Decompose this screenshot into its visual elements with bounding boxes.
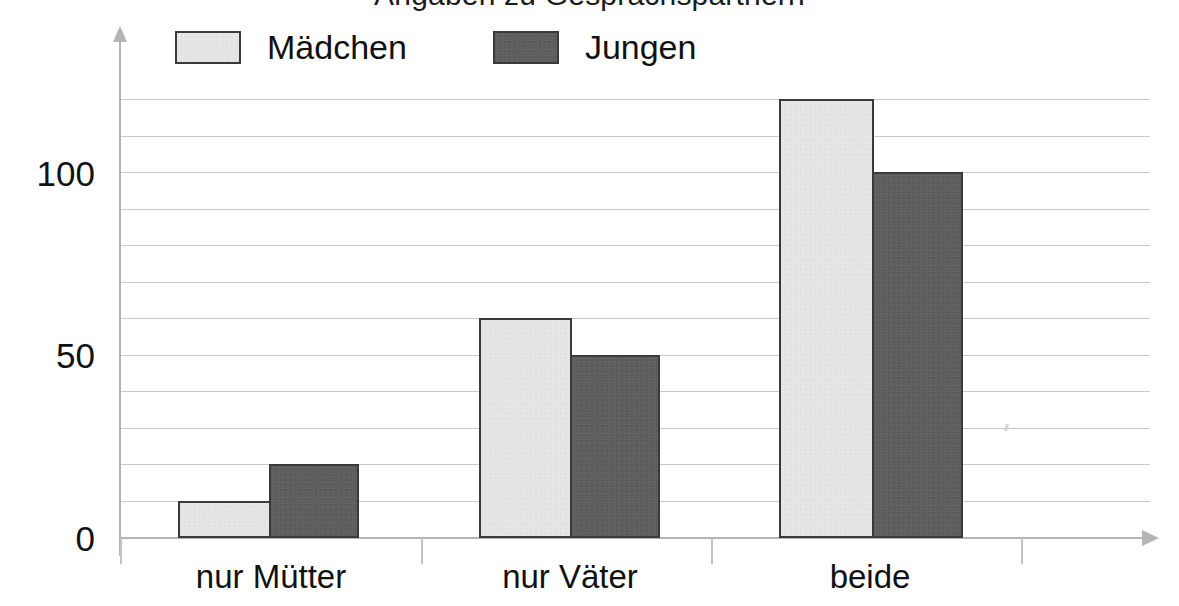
gridline-60	[120, 318, 1150, 319]
chart-legend: Mädchen Jungen	[175, 30, 696, 64]
plot-area: 100 50 0 nur Mütter nur Väter beide	[0, 0, 1179, 606]
legend-label-maedchen: Mädchen	[267, 30, 407, 64]
y-axis-label-100: 100	[10, 156, 95, 191]
x-axis-tick	[711, 538, 713, 564]
y-axis-label-0: 0	[10, 521, 95, 556]
x-axis-tick	[421, 538, 423, 564]
gridline-100	[120, 172, 1150, 173]
x-axis-label-nur-muetter: nur Mütter	[171, 560, 371, 593]
bar-jungen-beide	[872, 172, 963, 538]
x-axis-label-nur-vaeter: nur Väter	[470, 560, 670, 593]
y-axis-line	[119, 40, 121, 556]
gridline-120	[120, 99, 1150, 100]
bar-jungen-nur-vaeter	[570, 355, 660, 538]
x-axis-label-beide: beide	[770, 560, 970, 593]
bar-chart: Angaben zu Gesprächspartnern 100 50 0	[0, 0, 1179, 606]
bar-jungen-nur-muetter	[269, 464, 359, 538]
dark-swatch-icon	[493, 31, 559, 64]
bar-maedchen-nur-vaeter	[479, 318, 572, 538]
x-axis-arrow-icon	[1142, 530, 1159, 546]
gridline-90	[120, 209, 1150, 210]
gridline-70	[120, 282, 1150, 283]
legend-item-maedchen: Mädchen	[175, 30, 407, 64]
gridline-110	[120, 136, 1150, 137]
bar-maedchen-nur-muetter	[178, 501, 271, 538]
bar-maedchen-beide	[779, 99, 874, 538]
legend-item-jungen: Jungen	[493, 30, 697, 64]
light-swatch-icon	[175, 31, 241, 64]
x-axis-tick	[120, 538, 122, 564]
legend-label-jungen: Jungen	[585, 30, 697, 64]
x-axis-tick	[1021, 538, 1023, 564]
y-axis-arrow-icon	[113, 26, 127, 42]
y-axis-label-50: 50	[10, 338, 95, 373]
gridline-80	[120, 245, 1150, 246]
